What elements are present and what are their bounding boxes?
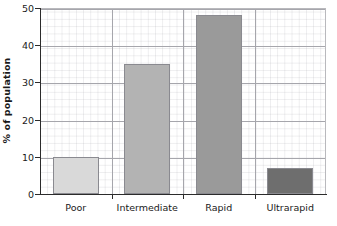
y-axis-tick-mark: [35, 194, 40, 195]
gridline-vertical: [112, 9, 113, 194]
y-axis-tick-mark: [35, 45, 40, 46]
gridline-vertical: [183, 9, 184, 194]
bar-poor: [53, 157, 99, 194]
y-axis-tick-label: 30: [22, 77, 34, 88]
y-axis-tick-mark: [35, 120, 40, 121]
y-axis-line: [40, 8, 41, 195]
x-axis-tick-mark: [255, 194, 256, 199]
y-axis-tick-mark: [35, 157, 40, 158]
x-axis-tick-mark: [183, 194, 184, 199]
x-axis-category-label: Ultrarapid: [267, 202, 314, 213]
bar-intermediate: [124, 64, 170, 194]
y-axis-tick-label: 10: [22, 151, 34, 162]
y-axis-tick-label: 0: [28, 189, 34, 200]
bar-chart: % of population 01020304050 PoorIntermed…: [0, 0, 337, 226]
y-axis-tick-label: 50: [22, 3, 34, 14]
bar-rapid: [196, 15, 242, 194]
x-axis-tick-mark: [112, 194, 113, 199]
y-axis-title: % of population: [0, 0, 14, 200]
bar-ultrarapid: [267, 168, 313, 194]
y-axis-title-text: % of population: [2, 57, 13, 143]
gridline-vertical: [255, 9, 256, 194]
y-axis-tick-labels: 01020304050: [14, 0, 38, 226]
plot-area: [40, 8, 326, 194]
x-axis-category-label: Rapid: [205, 202, 232, 213]
y-axis-tick-label: 40: [22, 40, 34, 51]
y-axis-tick-mark: [35, 82, 40, 83]
x-axis-category-label: Intermediate: [117, 202, 178, 213]
y-axis-tick-label: 20: [22, 114, 34, 125]
y-axis-tick-mark: [35, 8, 40, 9]
x-axis-category-label: Poor: [65, 202, 86, 213]
